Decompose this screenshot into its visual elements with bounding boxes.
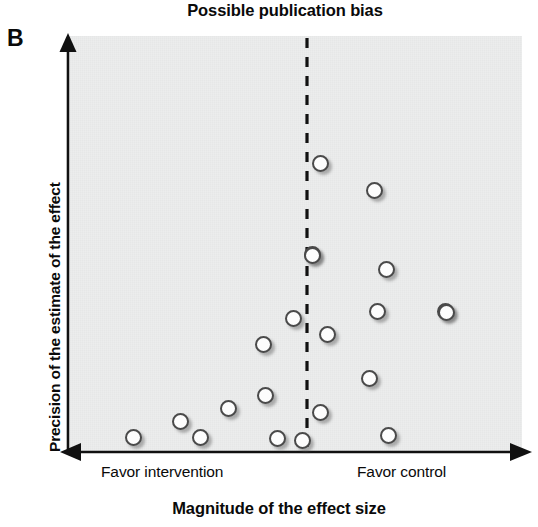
- x-axis-label: Magnitude of the effect size: [0, 499, 538, 518]
- data-point: [378, 261, 395, 278]
- x-axis-left-annotation: Favor intervention: [101, 463, 223, 481]
- data-point: [220, 400, 237, 417]
- data-point: [257, 387, 274, 404]
- data-point: [361, 370, 378, 387]
- data-point: [255, 336, 272, 353]
- data-point: [172, 413, 189, 430]
- y-axis-label: Precision of the estimate of the effect: [46, 182, 64, 452]
- x-axis-label-text: Magnitude of the effect size: [172, 499, 386, 518]
- data-point: [304, 247, 321, 264]
- data-point: [285, 310, 302, 327]
- data-point: [312, 404, 329, 421]
- data-point: [269, 430, 286, 447]
- data-points-layer: [0, 0, 538, 527]
- data-point: [369, 303, 386, 320]
- funnel-plot-figure: Possible publication bias B Precision of…: [0, 0, 538, 527]
- data-point: [438, 304, 455, 321]
- data-point: [312, 155, 329, 172]
- data-point: [380, 427, 397, 444]
- data-point: [125, 429, 142, 446]
- x-axis-right-annotation: Favor control: [357, 463, 446, 481]
- data-point: [294, 432, 311, 449]
- data-point: [366, 182, 383, 199]
- data-point: [319, 326, 336, 343]
- data-point: [192, 429, 209, 446]
